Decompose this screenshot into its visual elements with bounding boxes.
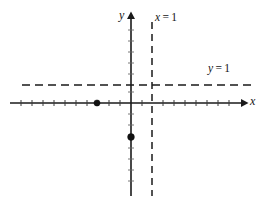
vertical-asymptote-label: x=1 <box>155 12 177 24</box>
x-axis-label: x <box>250 95 256 107</box>
plot-canvas <box>0 0 269 203</box>
x-axis-group <box>10 99 249 107</box>
horizontal-asymptote-label: y=1 <box>208 63 230 75</box>
coordinate-plane-figure: x y x=1 y=1 <box>0 0 269 203</box>
y-intercept-point <box>128 134 135 141</box>
x-intercept-point <box>94 100 100 106</box>
y-axis-arrow-icon <box>127 12 135 20</box>
vertical-asymptote-label-equals: = <box>160 11 171 23</box>
vertical-asymptote-label-value: 1 <box>171 11 177 23</box>
horizontal-asymptote-label-value: 1 <box>224 62 230 74</box>
x-axis-arrow-icon <box>241 99 249 107</box>
horizontal-asymptote-label-equals: = <box>213 62 224 74</box>
y-axis-label: y <box>119 9 125 21</box>
